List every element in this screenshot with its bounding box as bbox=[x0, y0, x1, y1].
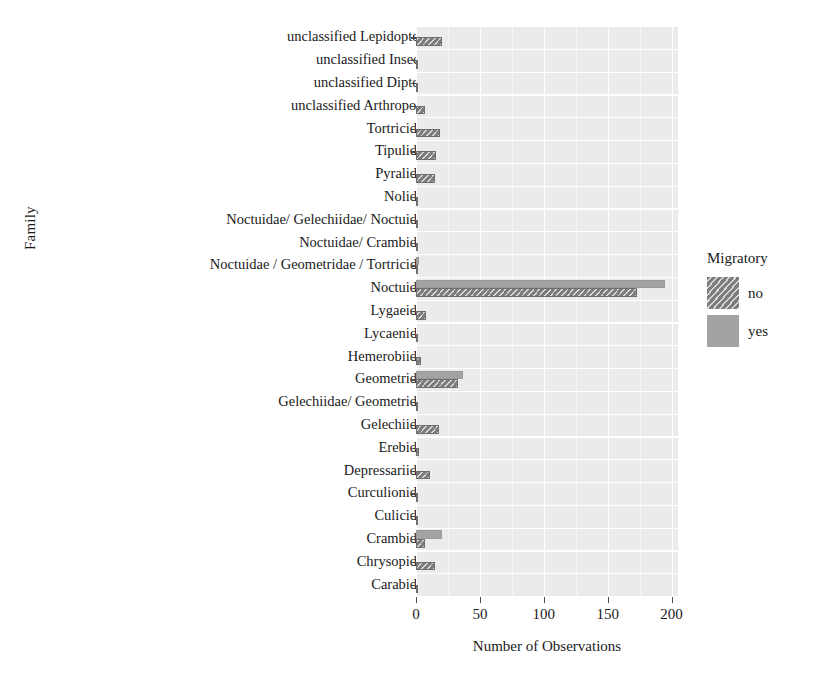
bar-yes bbox=[416, 257, 419, 266]
bar-no bbox=[416, 379, 458, 388]
x-axis-tick-label: 0 bbox=[396, 606, 436, 623]
x-axis-tick-mark bbox=[480, 597, 481, 603]
bar-no bbox=[416, 357, 421, 366]
legend-item-yes[interactable]: yes bbox=[707, 315, 827, 347]
bar-group bbox=[416, 368, 678, 391]
bar-group bbox=[416, 26, 678, 49]
bar-group bbox=[416, 231, 678, 254]
bar-group bbox=[416, 505, 678, 528]
bar-yes bbox=[416, 371, 463, 380]
bar-no bbox=[416, 311, 426, 320]
x-axis-title: Number of Observations bbox=[417, 638, 677, 655]
y-axis-tick-label: Noctuidae / Geometridae / Tortricidae bbox=[210, 257, 430, 271]
bar-group bbox=[416, 414, 678, 437]
x-axis-tick-mark bbox=[672, 597, 673, 603]
y-axis-tick-label: Gelechiidae/ Geometridae bbox=[278, 394, 430, 408]
y-axis-tick-label: unclassified Lepidoptera bbox=[287, 29, 430, 43]
legend-swatch-icon bbox=[707, 315, 739, 347]
bar-no bbox=[416, 60, 418, 69]
bar-group bbox=[416, 528, 678, 551]
bar-no bbox=[416, 220, 418, 229]
bar-no bbox=[416, 585, 418, 594]
bar-group bbox=[416, 322, 678, 345]
bar-chart: Family unclassified Lepidopteraunclassif… bbox=[0, 0, 839, 684]
x-axis-tick-mark bbox=[608, 597, 609, 603]
bar-no bbox=[416, 106, 425, 115]
y-axis-tick-label: Noctuidae/ Crambidae bbox=[299, 235, 430, 249]
legend-items: noyes bbox=[707, 277, 827, 347]
bar-group bbox=[416, 482, 678, 505]
bar-group bbox=[416, 117, 678, 140]
y-axis-tick-label: unclassified Arthropoda bbox=[291, 98, 430, 112]
bar-group bbox=[416, 436, 678, 459]
bar-no bbox=[416, 151, 436, 160]
bar-group bbox=[416, 550, 678, 573]
x-axis-tick-label: 150 bbox=[588, 606, 628, 623]
legend-item-no[interactable]: no bbox=[707, 277, 827, 309]
plot-panel bbox=[416, 26, 678, 596]
bar-no bbox=[416, 197, 418, 206]
bar-no bbox=[416, 265, 418, 274]
bar-group bbox=[416, 254, 678, 277]
legend-swatch-icon bbox=[707, 277, 739, 309]
y-axis-tick-label: unclassified Diptera bbox=[314, 75, 430, 89]
bar-no bbox=[416, 402, 418, 411]
x-axis-tick-label: 200 bbox=[652, 606, 692, 623]
legend-item-label: no bbox=[748, 285, 763, 302]
x-axis-tick-mark bbox=[544, 597, 545, 603]
bar-group bbox=[416, 208, 678, 231]
bar-group bbox=[416, 49, 678, 72]
bar-no bbox=[416, 129, 440, 138]
y-axis-tick-label: unclassified Insecta bbox=[316, 52, 430, 66]
bar-group bbox=[416, 72, 678, 95]
bar-no bbox=[416, 448, 419, 457]
bar-group bbox=[416, 459, 678, 482]
bar-no bbox=[416, 83, 418, 92]
legend: Migratory noyes bbox=[707, 250, 827, 353]
bar-group bbox=[416, 345, 678, 368]
bar-no bbox=[416, 243, 418, 252]
bar-no bbox=[416, 562, 435, 571]
bar-group bbox=[416, 300, 678, 323]
bar-group bbox=[416, 186, 678, 209]
bar-group bbox=[416, 94, 678, 117]
bar-no bbox=[416, 334, 418, 343]
y-axis-tick-label: Noctuidae/ Gelechiidae/ Noctuidae bbox=[226, 212, 430, 226]
bar-group bbox=[416, 140, 678, 163]
x-axis-tick-label: 50 bbox=[460, 606, 500, 623]
y-axis-title: Family bbox=[22, 206, 39, 250]
bar-group bbox=[416, 391, 678, 414]
bar-yes bbox=[416, 530, 442, 539]
x-axis-tick-label: 100 bbox=[524, 606, 564, 623]
bar-yes bbox=[416, 280, 665, 289]
bar-no bbox=[416, 425, 439, 434]
bar-group bbox=[416, 163, 678, 186]
legend-title: Migratory bbox=[707, 250, 827, 267]
x-axis-tick-mark bbox=[416, 597, 417, 603]
bar-group bbox=[416, 277, 678, 300]
legend-item-label: yes bbox=[748, 323, 768, 340]
bar-group bbox=[416, 573, 678, 596]
bar-no bbox=[416, 539, 425, 548]
bar-no bbox=[416, 288, 637, 297]
bar-no bbox=[416, 516, 418, 525]
bar-no bbox=[416, 37, 442, 46]
bar-no bbox=[416, 471, 430, 480]
bar-no bbox=[416, 493, 418, 502]
bar-no bbox=[416, 174, 435, 183]
